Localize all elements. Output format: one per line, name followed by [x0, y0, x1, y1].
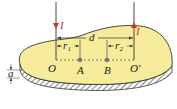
- label-A: A: [76, 64, 84, 76]
- label-O: O: [48, 62, 56, 74]
- label-d: d: [89, 31, 95, 43]
- label-r1: r₁: [63, 39, 71, 51]
- point-B: [105, 58, 110, 63]
- plate-surface: [19, 25, 172, 84]
- current-arrow-down-icon: [53, 23, 59, 29]
- point-A: [78, 58, 83, 63]
- conducting-plate-diagram: I I d r₁ r₂ O A B O′ a: [0, 0, 177, 109]
- label-O-prime: O′: [130, 62, 141, 74]
- label-a: a: [8, 67, 14, 79]
- label-B: B: [104, 64, 111, 76]
- label-r2: r₂: [115, 39, 123, 51]
- current-label-left: I: [59, 19, 65, 31]
